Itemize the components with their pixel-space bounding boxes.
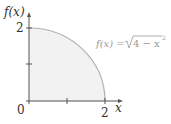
x-axis-label: x	[115, 101, 122, 115]
equation-lhs: f(x) =	[95, 38, 125, 49]
equation: f(x) = 4 − x 2	[95, 34, 166, 49]
y-axis-arrow-icon	[27, 12, 31, 17]
equation-radicand: 4 − x	[133, 38, 160, 49]
x-tick-label-2: 2	[101, 106, 109, 120]
y-axis-label: f(x)	[3, 5, 25, 19]
area-under-curve	[29, 28, 105, 101]
y-tick-label-2: 2	[16, 21, 24, 35]
chart: f(x) 2 0 2 x f(x) = 4 − x 2	[0, 0, 171, 124]
origin-label: 0	[17, 103, 25, 117]
equation-exponent: 2	[162, 34, 166, 41]
